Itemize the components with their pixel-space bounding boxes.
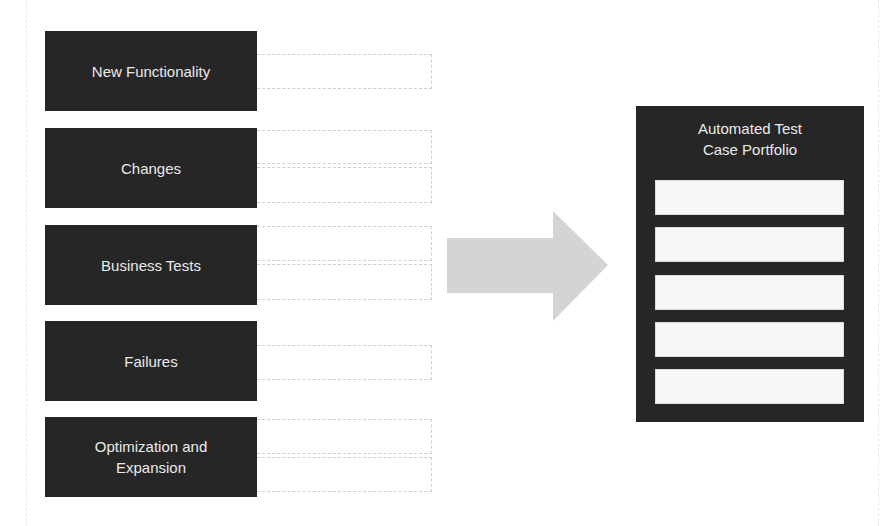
source-box-optimization-expansion: Optimization and Expansion — [45, 417, 257, 497]
source-slot — [257, 226, 432, 261]
right-margin-line — [878, 0, 879, 526]
source-label: Business Tests — [101, 255, 201, 276]
source-slot — [257, 457, 432, 492]
source-slot — [257, 345, 432, 380]
source-label: New Functionality — [92, 61, 210, 82]
source-slot — [257, 130, 432, 164]
source-label: Failures — [124, 351, 177, 372]
portfolio-title: Automated Test Case Portfolio — [636, 118, 864, 160]
source-box-business-tests: Business Tests — [45, 225, 257, 305]
source-label: Changes — [121, 158, 181, 179]
source-slot — [257, 54, 432, 89]
right-arrow-icon — [447, 211, 608, 321]
portfolio-slot — [655, 275, 844, 310]
portfolio-slot — [655, 227, 844, 262]
portfolio-slot — [655, 322, 844, 357]
source-slot — [257, 419, 432, 454]
source-box-changes: Changes — [45, 128, 257, 208]
automated-test-case-portfolio: Automated Test Case Portfolio — [636, 106, 864, 422]
source-label: Optimization and Expansion — [95, 436, 208, 478]
portfolio-slot — [655, 180, 844, 215]
source-slot — [257, 167, 432, 203]
source-box-new-functionality: New Functionality — [45, 31, 257, 111]
source-slot — [257, 264, 432, 300]
source-box-failures: Failures — [45, 321, 257, 401]
portfolio-slot — [655, 369, 844, 404]
left-margin-line — [26, 0, 27, 526]
